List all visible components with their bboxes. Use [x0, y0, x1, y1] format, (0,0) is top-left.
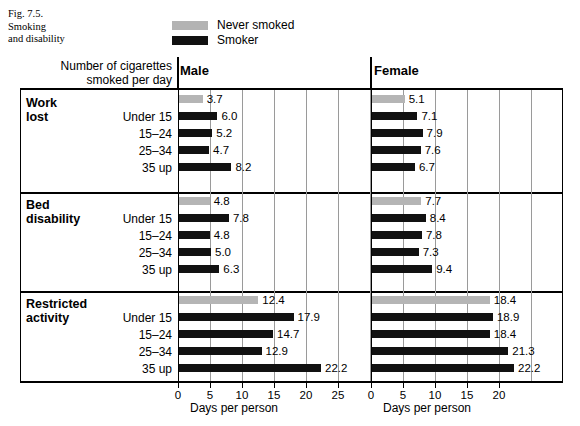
axis-tick-label: 15: [262, 389, 286, 401]
bar: [372, 129, 423, 137]
bar: [179, 197, 210, 205]
group-label-line1: Work: [26, 96, 57, 110]
bar: [372, 197, 421, 205]
bar-value-label: 5.0: [215, 247, 231, 259]
bar: [179, 330, 273, 338]
row-header-title: Number of cigarettes smoked per day: [2, 60, 172, 87]
category-label: 35 up: [32, 264, 172, 276]
axis-title-female: Days per person: [383, 401, 471, 415]
header-divider-male: [177, 57, 179, 88]
gridline-25: [338, 90, 339, 381]
bar: [179, 347, 262, 355]
bar: [372, 231, 422, 239]
bar: [179, 296, 258, 304]
bar-value-label: 4.8: [214, 230, 230, 242]
category-label: Under 15: [32, 312, 172, 324]
axis-tick-label: 10: [230, 389, 254, 401]
axis-tick-label: 20: [294, 389, 318, 401]
axis-tick: [210, 382, 211, 388]
bar-value-label: 18.9: [497, 312, 519, 324]
panel-title-female: Female: [374, 63, 419, 78]
bar-value-label: 22.2: [325, 363, 347, 375]
category-label: 35 up: [32, 162, 172, 174]
legend-swatch-icon-never-smoked: [172, 21, 208, 30]
bar: [372, 248, 419, 256]
category-label: 25–34: [32, 145, 172, 157]
category-label: 15–24: [32, 230, 172, 242]
axis-tick: [242, 382, 243, 388]
bar: [372, 214, 426, 222]
category-label: Under 15: [32, 111, 172, 123]
bar: [372, 95, 405, 103]
bar-value-label: 8.4: [430, 213, 446, 225]
bar: [179, 129, 212, 137]
axis-tick: [435, 382, 436, 388]
group-label-line1: Bed: [26, 198, 80, 212]
category-label: 25–34: [32, 247, 172, 259]
axis-tick-label: 5: [198, 389, 222, 401]
axis-tick-label: 10: [423, 389, 447, 401]
bar: [179, 95, 203, 103]
axis-tick-label: 25: [326, 389, 350, 401]
figure-title-line1: Smoking: [8, 21, 118, 34]
bar: [179, 248, 211, 256]
row-header-line2: smoked per day: [2, 74, 172, 88]
axis-title-male: Days per person: [190, 401, 278, 415]
bar-value-label: 7.6: [425, 145, 441, 157]
axis-tick: [338, 382, 339, 388]
chart-panel-female: 5.17.17.97.66.77.78.47.87.39.418.418.918…: [371, 90, 563, 381]
bar-value-label: 6.3: [223, 264, 239, 276]
bar-value-label: 12.4: [262, 295, 284, 307]
bar: [179, 214, 229, 222]
bar-value-label: 14.7: [277, 329, 299, 341]
axis-tick: [178, 382, 179, 388]
rule-bottom: [20, 381, 563, 383]
row-header-line1: Number of cigarettes: [2, 60, 172, 74]
bar: [372, 364, 514, 372]
axis-tick: [499, 382, 500, 388]
bar-value-label: 4.7: [213, 145, 229, 157]
category-label: Under 15: [32, 213, 172, 225]
bar-value-label: 21.3: [512, 346, 534, 358]
bar-value-label: 7.1: [421, 111, 437, 123]
bar-value-label: 7.7: [425, 196, 441, 208]
bar: [179, 364, 321, 372]
bar-value-label: 18.4: [494, 329, 516, 341]
bar-value-label: 6.0: [221, 111, 237, 123]
figure-root: Fig. 7.5. Smoking and disability Never s…: [0, 0, 580, 426]
bar: [372, 313, 493, 321]
bar-value-label: 7.8: [233, 213, 249, 225]
bar: [372, 112, 417, 120]
bar-value-label: 9.4: [436, 264, 452, 276]
axis-tick: [371, 382, 372, 388]
axis-tick: [274, 382, 275, 388]
bar-value-label: 8.2: [235, 162, 251, 174]
category-label: 15–24: [32, 329, 172, 341]
bar-value-label: 6.7: [419, 162, 435, 174]
header-divider-female: [370, 57, 372, 88]
axis-tick-label: 20: [487, 389, 511, 401]
axis-tick-label: 5: [391, 389, 415, 401]
category-label: 35 up: [32, 363, 172, 375]
bar: [372, 265, 432, 273]
axis-tick: [403, 382, 404, 388]
bar: [372, 347, 508, 355]
bar-value-label: 18.4: [494, 295, 516, 307]
figure-caption: Fig. 7.5. Smoking and disability: [8, 8, 118, 46]
bar: [179, 163, 231, 171]
bar-value-label: 7.3: [423, 247, 439, 259]
bar: [372, 330, 490, 338]
axis-tick-label: 15: [455, 389, 479, 401]
legend: Never smoked Smoker: [172, 18, 294, 48]
bar-value-label: 17.9: [298, 312, 320, 324]
axis-tick-label: 0: [166, 389, 190, 401]
axis-tick: [306, 382, 307, 388]
legend-label-smoker: Smoker: [217, 34, 258, 47]
legend-item-never-smoked: Never smoked: [172, 18, 294, 33]
legend-item-smoker: Smoker: [172, 33, 294, 48]
figure-number: Fig. 7.5.: [8, 8, 118, 21]
group-label-line1: Restricted: [26, 297, 87, 311]
bar-value-label: 22.2: [518, 363, 540, 375]
chart-panel-male: 3.76.05.24.78.24.87.84.85.06.312.417.914…: [178, 90, 371, 381]
frame-left-edge: [20, 90, 21, 382]
